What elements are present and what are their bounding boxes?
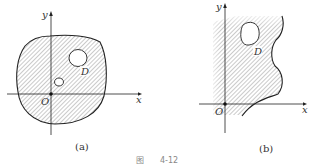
x-axis-label-a: x xyxy=(136,94,142,105)
figure-canvas: D y x O (a) D y x O (b) 图 4-12 xyxy=(0,0,315,167)
figure-caption-prefix: 图 xyxy=(136,156,144,165)
panel-caption-b: (b) xyxy=(259,143,273,154)
hole-b xyxy=(241,22,259,45)
figure-caption-number: 4-12 xyxy=(160,156,178,165)
hole-small-a xyxy=(55,78,64,86)
y-axis-label-a: y xyxy=(41,9,48,20)
region-label-a: D xyxy=(80,66,89,77)
panel-a: D y x O (a) xyxy=(0,0,160,167)
y-axis-label-b: y xyxy=(215,1,222,12)
origin-label-a: O xyxy=(41,96,49,107)
origin-dot-a xyxy=(49,92,53,96)
origin-dot-b xyxy=(223,102,227,106)
panel-caption-a: (a) xyxy=(75,141,89,152)
x-axis-label-b: x xyxy=(302,104,308,115)
origin-label-b: O xyxy=(215,106,223,117)
region-label-b: D xyxy=(253,46,262,57)
hole-large-a xyxy=(69,50,87,67)
panel-b: D y x O (b) xyxy=(160,0,315,167)
